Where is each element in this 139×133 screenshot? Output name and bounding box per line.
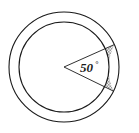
degree-symbol-label: ° — [95, 60, 99, 69]
angle-value-label: 50 — [80, 60, 94, 75]
figure-container: 50 ° — [0, 0, 139, 133]
annulus-diagram: 50 ° — [0, 0, 139, 133]
